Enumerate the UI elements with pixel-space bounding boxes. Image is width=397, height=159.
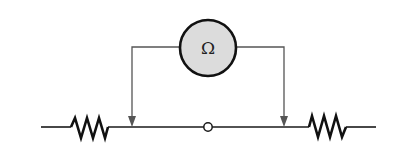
resistor-left-icon [71, 118, 108, 138]
circuit-diagram: Ω [0, 0, 397, 159]
lead-left [128, 47, 180, 127]
arrow-down-icon [280, 116, 288, 127]
center-node-icon [204, 123, 212, 131]
ohmmeter-symbol: Ω [188, 34, 228, 62]
arrow-down-icon [128, 116, 136, 127]
resistor-right-icon [309, 116, 346, 137]
lead-right [236, 47, 288, 127]
circuit-svg [0, 0, 397, 159]
